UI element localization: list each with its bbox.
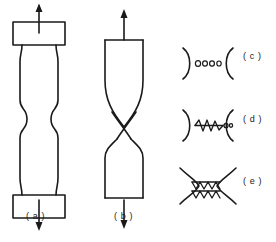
specimen-b-chisel-point: [105, 9, 143, 229]
specimen-upper-right-b: [124, 40, 143, 127]
panel-label-b: ( b ): [114, 211, 133, 221]
specimen-lower-right-b: [131, 139, 143, 198]
specimen-a-cup-and-cone: [13, 4, 65, 232]
detail-c-void-nucleation: [183, 48, 233, 79]
specimen-cross-left-b: [112, 112, 131, 139]
fracture-face-right-c: [226, 48, 233, 79]
panel-label-d: ( d ): [243, 114, 262, 124]
fracture-face-left-d: [183, 110, 190, 141]
detail-d-void-coalescence: [183, 110, 233, 141]
specimen-profile-right-a: [51, 45, 58, 195]
fracture-diagram-svg: [0, 0, 276, 242]
tensile-load-arrow-up-a: [36, 4, 43, 34]
void-row-c: [195, 61, 221, 67]
panel-label-a: ( a ): [26, 211, 45, 221]
specimen-profile-left-a: [20, 45, 27, 195]
figure-canvas: ( a ) ( b ) ( c ) ( d ) ( e ): [0, 0, 276, 242]
panel-label-e: ( e ): [243, 176, 262, 186]
panel-label-c: ( c ): [243, 51, 262, 61]
tensile-load-arrow-up-b: [121, 9, 128, 40]
fracture-face-left-c: [183, 48, 190, 79]
specimen-cross-right-b: [117, 112, 136, 139]
specimen-lower-left-b: [105, 139, 117, 198]
detail-e-shear-fracture: [180, 168, 236, 204]
specimen-upper-left-b: [105, 40, 124, 127]
